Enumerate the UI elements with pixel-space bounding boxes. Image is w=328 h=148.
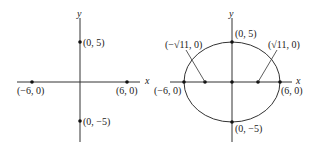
left-y-label: y	[76, 8, 82, 19]
label-0-5: (0, 5)	[83, 37, 105, 49]
label-neg6-0: (−6, 0)	[17, 85, 44, 97]
point-6-0	[125, 80, 129, 84]
r-point-0-neg5	[230, 120, 234, 124]
r-label-0-neg5: (0, −5)	[235, 123, 262, 135]
r-label-sqrt11: (√11, 0)	[268, 39, 300, 51]
left-diagram: x y (0, 5) (0, −5) (−6, 0) (6, 0)	[17, 8, 150, 142]
diagram-canvas: x y (0, 5) (0, −5) (−6, 0) (6, 0) x y (0…	[0, 0, 328, 148]
r-label-neg6-0: (−6, 0)	[154, 85, 181, 97]
r-label-neg-sqrt11: (−√11, 0)	[165, 39, 202, 51]
left-x-label: x	[144, 75, 150, 86]
point-0-neg5	[78, 119, 82, 123]
r-point-origin	[230, 80, 234, 84]
r-point-6-0	[278, 80, 282, 84]
r-point-0-5	[230, 40, 234, 44]
leader-neg-sqrt11	[186, 50, 205, 82]
r-point-neg6-0	[182, 80, 186, 84]
right-y-label: y	[228, 8, 234, 19]
label-0-neg5: (0, −5)	[83, 116, 110, 128]
label-6-0: (6, 0)	[116, 85, 138, 97]
point-0-5	[78, 40, 82, 44]
right-diagram: x y (0, 5) (0, −5) (−6, 0) (6, 0) (−√11,…	[154, 8, 303, 142]
r-label-6-0: (6, 0)	[281, 85, 303, 97]
r-label-0-5: (0, 5)	[235, 28, 257, 40]
point-neg6-0	[30, 80, 34, 84]
